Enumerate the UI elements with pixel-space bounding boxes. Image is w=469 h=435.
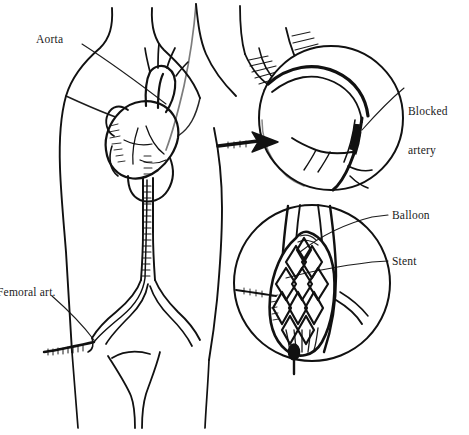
heart-magnifier-inset — [259, 46, 403, 190]
label-stent: Stent — [392, 255, 417, 268]
label-aorta: Aorta — [36, 33, 63, 46]
label-blocked-artery-line2: artery — [408, 144, 448, 157]
illustration-canvas: Aorta Blocked artery Balloon Stent Femor… — [0, 0, 469, 435]
label-blocked-artery-line1: Blocked — [408, 105, 448, 118]
label-blocked-artery: Blocked artery — [408, 79, 448, 183]
label-femoral-artery: Femoral art. — [0, 286, 56, 299]
label-balloon: Balloon — [392, 209, 430, 222]
